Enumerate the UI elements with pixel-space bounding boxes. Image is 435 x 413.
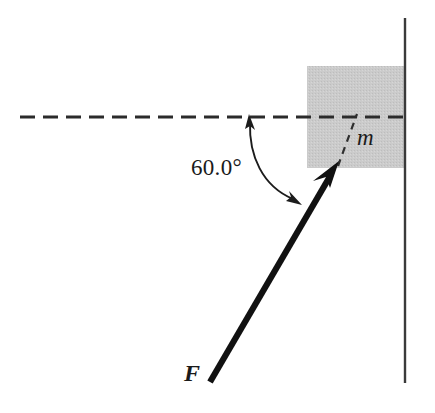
physics-diagram-figure: 60.0° m F bbox=[0, 0, 435, 413]
diagram-canvas bbox=[0, 0, 435, 413]
angle-arc-lower-arrowhead bbox=[286, 191, 302, 205]
force-arrow-shaft bbox=[210, 178, 329, 382]
angle-arc bbox=[250, 123, 293, 199]
mass-label: m bbox=[357, 126, 374, 149]
force-label: F bbox=[184, 361, 200, 385]
angle-label: 60.0° bbox=[191, 156, 242, 179]
